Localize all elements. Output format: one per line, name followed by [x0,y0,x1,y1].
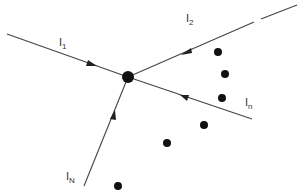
arrowhead-icon [86,60,97,66]
arrowhead-icon [110,110,116,120]
edge-i1 [7,34,128,77]
label-iN: IN [66,170,75,185]
arrowhead-icon [181,48,192,55]
dot [221,70,229,78]
label-in: In [245,96,253,111]
junction-node [122,71,134,83]
dot [114,182,122,190]
edge-iN [84,77,128,186]
label-i1: I1 [59,36,67,51]
edge-i2 [128,5,297,77]
arrowhead-icon [180,95,189,101]
dot [163,139,171,147]
edge-in [128,77,252,119]
label-i2: I2 [186,12,194,27]
dot [218,94,226,102]
dot [214,48,222,56]
dot [200,121,208,129]
ellipsis-dots [114,48,229,190]
junction-diagram: I1 I2 In IN [0,0,300,192]
